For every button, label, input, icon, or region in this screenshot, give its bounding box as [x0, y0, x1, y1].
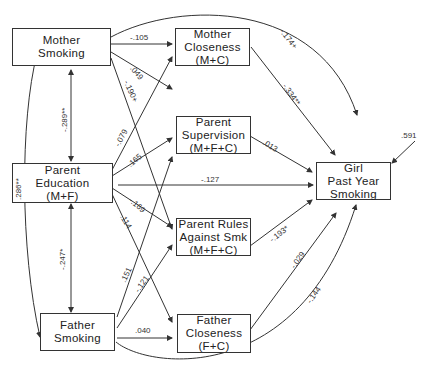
- node-parent-supervision: Parent Supervision (M+F+C): [176, 116, 251, 154]
- residual-label: .591: [401, 131, 417, 140]
- node-label: Parent Rules: [178, 218, 248, 231]
- covariance-label: .286**: [14, 178, 23, 200]
- node-label: Father: [60, 319, 95, 332]
- node-father-smoking: Father Smoking: [40, 313, 115, 351]
- node-label: Mother: [43, 34, 81, 47]
- node-mother-smoking: Mother Smoking: [12, 28, 111, 66]
- node-label: (M+F): [46, 190, 78, 203]
- node-label: Parent: [196, 116, 232, 129]
- node-label: (F+C): [198, 340, 229, 353]
- node-parent-education: Parent Education (M+F): [12, 163, 113, 203]
- path-label: -.105: [130, 33, 148, 42]
- node-label: Father: [196, 314, 231, 327]
- covariance-label: -.289**: [60, 108, 69, 132]
- node-label: Smoking: [54, 332, 101, 345]
- node-parent-rules: Parent Rules Against Smk (M+F+C): [176, 218, 251, 256]
- node-label: Closeness: [184, 41, 240, 54]
- path-label: -.127: [201, 175, 219, 184]
- node-label: Past Year: [328, 175, 380, 188]
- node-label: Smoking: [330, 188, 377, 201]
- node-mother-closeness: Mother Closeness (M+C): [175, 28, 250, 66]
- node-label: Supervision: [182, 129, 245, 142]
- node-label: Mother: [194, 28, 232, 41]
- node-label: Against Smk: [180, 231, 248, 244]
- node-girl-smoking: Girl Past Year Smoking: [316, 162, 391, 200]
- node-label: (M+F+C): [189, 244, 237, 257]
- covariance-label: -.247*: [58, 249, 67, 270]
- path-label: .040: [135, 326, 151, 335]
- node-label: Closeness: [186, 327, 242, 340]
- node-label: (M+C): [196, 54, 230, 67]
- node-label: Parent: [45, 164, 81, 177]
- node-father-closeness: Father Closeness (F+C): [177, 314, 251, 353]
- node-label: (M+F+C): [189, 142, 237, 155]
- node-label: Smoking: [38, 47, 85, 60]
- node-label: Education: [36, 177, 90, 190]
- node-label: Girl: [344, 162, 363, 175]
